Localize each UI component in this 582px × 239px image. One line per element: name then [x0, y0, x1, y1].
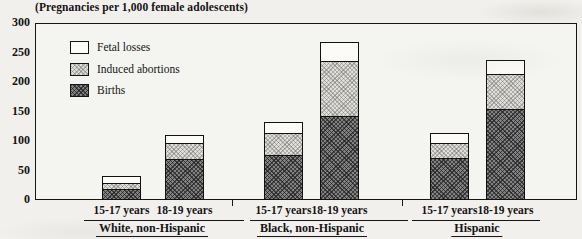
segment-births: [166, 159, 203, 199]
y-axis-tick-label-300: 300: [0, 15, 30, 29]
segment-induced_abortions: [487, 74, 524, 109]
legend-label-fetal-losses: Fetal losses: [97, 41, 150, 54]
fetal-losses-swatch-icon: [70, 41, 89, 54]
group-label-hispanic: Hispanic: [451, 222, 502, 237]
stacked-bar-black-non-hispanic-18-19: [320, 42, 359, 200]
age-group-label: 18-19 years: [478, 204, 534, 216]
segment-fetal_losses: [265, 123, 302, 133]
segment-induced_abortions: [431, 143, 468, 158]
age-group-label: 15-17 years: [94, 204, 150, 216]
age-group-label: 15-17 years: [422, 204, 478, 216]
stacked-bar-white-non-hispanic-15-17: [102, 176, 141, 200]
legend-label-births: Births: [97, 84, 125, 97]
y-axis-tick-label-250: 250: [0, 45, 30, 59]
segment-induced_abortions: [166, 143, 203, 159]
group-separator-tick: [402, 199, 404, 206]
group-separator-tick: [232, 199, 234, 206]
legend: Fetal losses Induced abortions Births: [70, 41, 180, 97]
group-label-black-non-hispanic: Black, non-Hispanic: [257, 222, 367, 237]
stacked-bar-white-non-hispanic-18-19: [165, 135, 204, 200]
segment-births: [103, 189, 140, 199]
segment-fetal_losses: [321, 43, 358, 61]
legend-item-induced-abortions: Induced abortions: [70, 63, 180, 76]
legend-label-induced-abortions: Induced abortions: [97, 63, 180, 76]
stacked-bar-hispanic-18-19: [486, 60, 525, 200]
segment-births: [431, 158, 468, 199]
y-axis-tick-label-200: 200: [0, 74, 30, 88]
segment-births: [321, 116, 358, 199]
chart-title: (Pregnancies per 1,000 female adolescent…: [35, 1, 248, 13]
legend-item-births: Births: [70, 84, 180, 97]
stacked-bar-black-non-hispanic-15-17: [264, 122, 303, 200]
stacked-bar-hispanic-15-17: [430, 133, 469, 200]
segment-births: [487, 109, 524, 199]
segment-induced_abortions: [265, 133, 302, 155]
group-label-white-non-hispanic: White, non-Hispanic: [96, 222, 208, 237]
segment-fetal_losses: [166, 136, 203, 143]
y-axis-tick-label-0: 0: [0, 192, 30, 206]
births-swatch-icon: [70, 84, 89, 97]
y-axis-tick-label-150: 150: [0, 104, 30, 118]
induced-abortions-swatch-icon: [70, 63, 89, 76]
segment-births: [265, 155, 302, 199]
y-axis-tick-label-100: 100: [0, 133, 30, 147]
age-group-label: 15-17 years: [256, 204, 312, 216]
age-group-label: 18-19 years: [312, 204, 368, 216]
pregnancy-rate-chart: (Pregnancies per 1,000 female adolescent…: [0, 0, 582, 239]
segment-fetal_losses: [431, 134, 468, 143]
age-group-label: 18-19 years: [157, 204, 213, 216]
segment-induced_abortions: [321, 61, 358, 116]
segment-fetal_losses: [487, 61, 524, 74]
legend-item-fetal-losses: Fetal losses: [70, 41, 180, 54]
y-axis-tick-label-50: 50: [0, 163, 30, 177]
